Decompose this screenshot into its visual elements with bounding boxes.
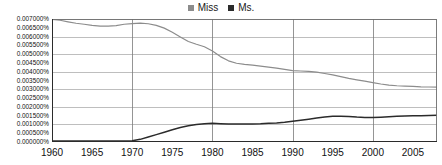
x-tick-label: 1975: [161, 148, 183, 158]
x-tick-label: 1965: [81, 148, 103, 158]
x-tick-label: 1960: [41, 148, 63, 158]
x-tick-label: 2005: [402, 148, 424, 158]
x-tick-label: 1995: [322, 148, 344, 158]
chart-container: Miss Ms. 0.007000%0.006500%0.006000%0.00…: [0, 0, 442, 165]
x-axis: 1960196519701975198019851990199520002005: [0, 0, 442, 165]
x-tick-label: 1970: [121, 148, 143, 158]
x-tick-label: 1980: [201, 148, 223, 158]
x-tick-label: 2000: [362, 148, 384, 158]
x-tick-label: 1990: [282, 148, 304, 158]
x-tick-label: 1985: [241, 148, 263, 158]
